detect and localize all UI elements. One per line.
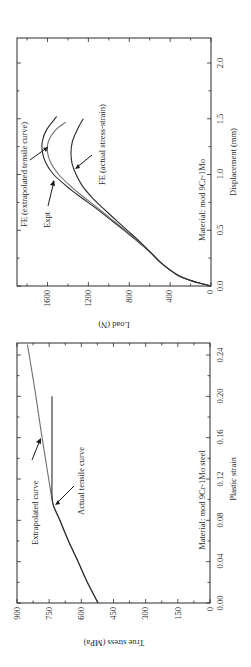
disp-tick-1.0: 1.0 (215, 169, 225, 180)
stress-strain-panel: 0 150 300 450 600 750 900 True stress (M… (12, 343, 238, 648)
figure: 0 400 800 1200 1600 Load (N) 0.0 0.5 1.0… (0, 0, 251, 667)
disp-tick-0.0: 0.0 (215, 281, 225, 292)
load-displacement-panel: 0 400 800 1200 1600 Load (N) 0.0 0.5 1.0… (17, 38, 238, 330)
stress-tick-450: 450 (108, 607, 118, 620)
annotation-expt: Expt (42, 211, 52, 228)
strain-tick-0.08: 0.08 (215, 513, 225, 528)
tick-marks-top (17, 38, 211, 286)
disp-tick-0.5: 0.5 (215, 225, 225, 236)
curve-fe-extrapolated-tensile-curve (42, 117, 211, 287)
arrowhead-expt (50, 180, 55, 186)
strain-tick-0.04: 0.04 (215, 553, 225, 569)
load-tick-800: 800 (124, 290, 134, 303)
annotation-fe-extrapolated: FE (extrapolated tensile curve) (19, 122, 29, 227)
disp-tick-1.5: 1.5 (215, 114, 225, 125)
annotation-extrapolated-curve: Extrapolated curve (30, 480, 40, 545)
tick-marks-bottom (17, 343, 210, 603)
plot-frame-bottom (17, 343, 210, 603)
curve-actual-tensile-curve (52, 396, 98, 603)
load-tick-1200: 1200 (83, 290, 93, 307)
stress-tick-600: 600 (76, 607, 86, 620)
curves-top (42, 117, 211, 287)
annotation-actual-tensile-curve: Actual tensile curve (76, 447, 86, 515)
strain-tick-0.20: 0.20 (215, 389, 225, 404)
load-tick-0: 0 (205, 290, 215, 294)
stress-tick-150: 150 (173, 607, 183, 620)
curve-fe-actual-stress-strain (71, 119, 211, 286)
annotation-fe-actual: FE (actual stress-strain) (97, 104, 107, 185)
stress-tick-0: 0 (205, 607, 215, 611)
load-axis-label: Load (N) (98, 320, 130, 330)
strain-tick-0.16: 0.16 (215, 430, 225, 445)
strain-tick-0.12: 0.12 (215, 472, 225, 487)
material-note-bottom: Material: mod 9Cr-1Mo steel (197, 450, 207, 550)
material-note-top: Material: mod 9Cr-1Mo (197, 159, 207, 241)
stress-tick-300: 300 (140, 607, 150, 620)
curve-extrapolated-curve (27, 345, 98, 603)
load-tick-1600: 1600 (42, 290, 52, 307)
stress-axis-label: True stress (MPa) (84, 638, 145, 648)
arrow-actual-tensile-curve (57, 486, 74, 503)
stress-tick-750: 750 (44, 607, 54, 620)
displacement-axis-label: Displacement (mm) (228, 128, 238, 196)
plastic-strain-axis-label: Plastic strain (228, 456, 238, 500)
plot-frame-top (17, 38, 211, 286)
stress-tick-900: 900 (12, 607, 22, 620)
strain-tick-0.24: 0.24 (215, 347, 225, 363)
strain-tick-0.00: 0.00 (215, 596, 225, 611)
load-tick-400: 400 (164, 290, 174, 303)
curves-bottom (27, 345, 98, 603)
disp-tick-2.0: 2.0 (215, 58, 225, 69)
